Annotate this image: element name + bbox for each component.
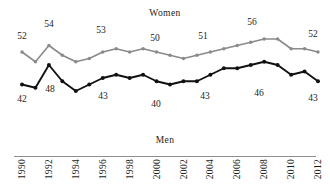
data-point (235, 66, 239, 70)
data-point (289, 73, 293, 77)
data-point (249, 63, 253, 67)
data-label-men-2000: 40 (151, 99, 161, 109)
data-point (168, 54, 171, 57)
data-point (181, 79, 185, 83)
data-point (60, 79, 64, 83)
data-point (114, 47, 117, 50)
x-tick-2012: 2012 (313, 159, 323, 179)
data-point (209, 50, 212, 53)
lines-svg (0, 18, 330, 128)
data-point (101, 50, 104, 53)
data-label-men-1990: 42 (17, 94, 27, 104)
data-point (141, 73, 145, 77)
x-tick-1992: 1992 (44, 159, 54, 179)
data-point (155, 50, 158, 53)
chart-container: Women 52 54 53 50 51 56 52 42 48 43 40 4… (0, 0, 330, 195)
data-point (303, 70, 307, 74)
data-point (276, 63, 280, 67)
x-tick-2006: 2006 (232, 159, 242, 179)
data-point (276, 37, 279, 40)
x-tick-2004: 2004 (205, 159, 215, 179)
data-label-men-2012: 43 (308, 93, 318, 103)
data-label-men-1995: 43 (98, 91, 108, 101)
data-point (195, 54, 198, 57)
series-title-women: Women (0, 8, 330, 18)
data-label-women-2012: 52 (308, 29, 318, 39)
data-point (262, 37, 265, 40)
data-point (208, 73, 212, 77)
data-point (114, 73, 118, 77)
data-point (88, 57, 91, 60)
data-point (316, 79, 320, 83)
series-title-men: Men (0, 135, 330, 145)
data-point (34, 60, 37, 63)
data-point (20, 50, 23, 53)
data-point (74, 60, 77, 63)
men-line (22, 62, 318, 91)
data-label-men-2003: 43 (200, 91, 210, 101)
data-label-women-2003: 51 (198, 31, 208, 41)
data-point (249, 41, 252, 44)
data-point (74, 89, 78, 93)
data-point (316, 50, 319, 53)
data-point (47, 44, 50, 47)
data-point (289, 47, 292, 50)
data-point (20, 83, 24, 87)
data-label-women-1990: 52 (17, 31, 27, 41)
data-point (61, 54, 64, 57)
x-tick-2000: 2000 (152, 159, 162, 179)
data-point (222, 47, 225, 50)
data-point (236, 44, 239, 47)
data-point (155, 79, 159, 83)
data-point (141, 47, 144, 50)
women-data-points (20, 37, 319, 63)
data-point (128, 50, 131, 53)
data-point (33, 86, 37, 90)
data-point (87, 83, 91, 87)
data-point (101, 76, 105, 80)
x-tick-1996: 1996 (98, 159, 108, 179)
data-point (303, 47, 306, 50)
data-label-men-1992: 48 (45, 84, 55, 94)
data-point (222, 66, 226, 70)
x-tick-1994: 1994 (71, 159, 81, 179)
data-label-women-1996: 53 (96, 25, 106, 35)
plot-area (0, 18, 330, 128)
data-point (47, 63, 51, 67)
x-tick-1998: 1998 (125, 159, 135, 179)
data-point (262, 60, 266, 64)
axis-rule (14, 156, 316, 157)
x-tick-2008: 2008 (259, 159, 269, 179)
data-point (195, 79, 199, 83)
data-label-women-1992: 54 (44, 19, 54, 29)
x-tick-1990: 1990 (17, 159, 27, 179)
x-axis-tick-labels: 1990199219941996199820002002200420062008… (0, 159, 330, 195)
x-tick-2010: 2010 (286, 159, 296, 179)
data-label-women-2008: 56 (247, 17, 257, 27)
data-label-men-2008: 46 (254, 88, 264, 98)
x-tick-2002: 2002 (179, 159, 189, 179)
data-point (168, 83, 172, 87)
women-line (22, 39, 318, 62)
data-point (182, 57, 185, 60)
data-point (128, 76, 132, 80)
data-label-women-2000: 50 (150, 33, 160, 43)
